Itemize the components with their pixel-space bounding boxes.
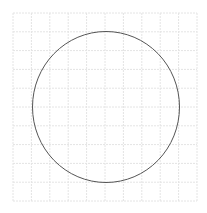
grid	[13, 13, 197, 201]
diagram-canvas	[0, 0, 207, 213]
